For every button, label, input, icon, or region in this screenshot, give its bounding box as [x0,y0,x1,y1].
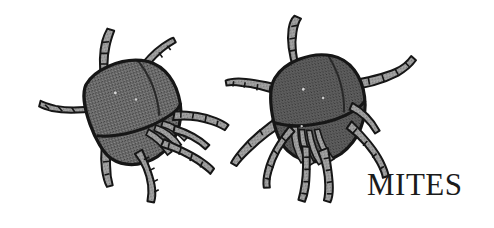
mites-figure: MITES [0,0,494,228]
figure-caption: MITES [367,168,463,202]
